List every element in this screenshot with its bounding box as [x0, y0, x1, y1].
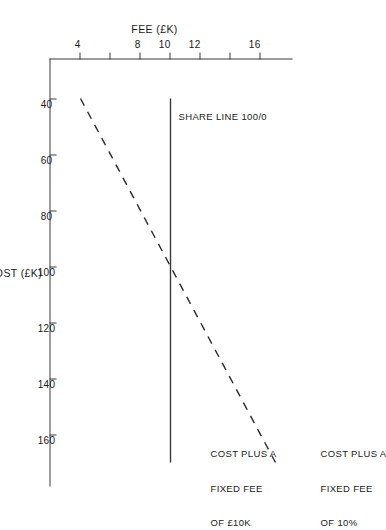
- annotation-ten-percent-line-3: OF 10%: [320, 516, 386, 528]
- annotation-ten-percent: COST PLUS A FIXED FEE OF 10%: [320, 424, 386, 530]
- annotation-fixed-fee-line-2: FIXED FEE: [210, 482, 276, 494]
- annotation-ten-percent-line-2: FIXED FEE: [320, 482, 386, 494]
- annotation-ten-percent-line-1: COST PLUS A: [320, 447, 386, 459]
- annotation-fixed-fee: COST PLUS A FIXED FEE OF £10K: [210, 424, 276, 530]
- annotation-fixed-fee-line-3: OF £10K: [210, 516, 276, 528]
- annotation-fixed-fee-line-1: COST PLUS A: [210, 447, 276, 459]
- series-line-ten-percent: [80, 98, 275, 462]
- annotation-share-line: SHARE LINE 100/0: [178, 110, 267, 122]
